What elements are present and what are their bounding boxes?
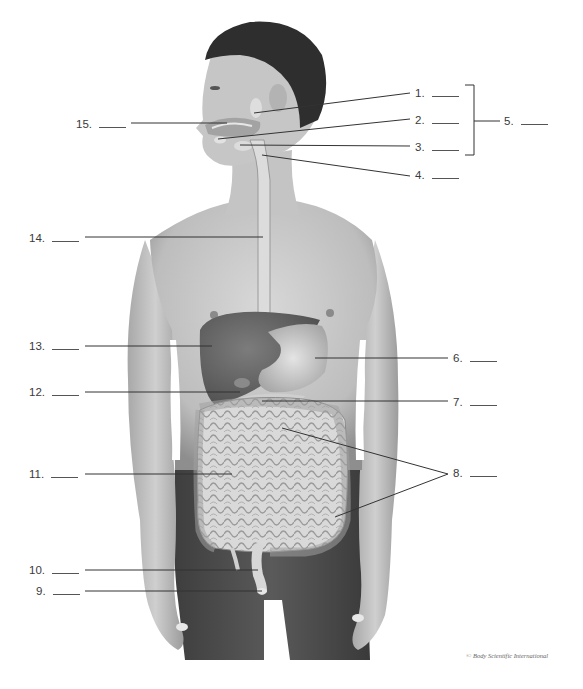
- label-14: 14.: [29, 231, 79, 245]
- answer-blank-14[interactable]: [52, 232, 79, 242]
- answer-blank-1[interactable]: [432, 87, 459, 97]
- submandibular-gland: [234, 141, 252, 151]
- anatomy-illustration: [0, 0, 583, 689]
- label-2: 2.: [415, 113, 459, 127]
- answer-blank-9[interactable]: [53, 585, 80, 595]
- label-12: 12.: [29, 385, 79, 399]
- gallbladder: [234, 378, 250, 388]
- label-11: 11.: [29, 467, 78, 481]
- answer-blank-12[interactable]: [52, 386, 79, 396]
- label-7: 7.: [453, 395, 497, 409]
- answer-blank-5[interactable]: [521, 115, 548, 125]
- answer-blank-10[interactable]: [52, 564, 79, 574]
- answer-blank-13[interactable]: [52, 340, 79, 350]
- label-8: 8.: [453, 466, 497, 480]
- parotid-gland: [250, 98, 262, 118]
- answer-blank-2[interactable]: [432, 114, 459, 124]
- copyright-credit: © Body Scientific International: [466, 652, 548, 659]
- answer-blank-6[interactable]: [470, 352, 497, 362]
- label-15: 15.: [76, 117, 126, 131]
- label-9: 9.: [36, 584, 80, 598]
- answer-blank-8[interactable]: [470, 467, 497, 477]
- label-5: 5.: [504, 114, 548, 128]
- answer-blank-4[interactable]: [432, 169, 459, 179]
- label-6: 6.: [453, 351, 497, 365]
- label-10: 10.: [29, 563, 79, 577]
- label-4: 4.: [415, 168, 459, 182]
- answer-blank-11[interactable]: [51, 468, 78, 478]
- label-13: 13.: [29, 339, 79, 353]
- answer-blank-3[interactable]: [432, 141, 459, 151]
- sublingual-gland: [214, 137, 226, 144]
- label-1: 1.: [415, 86, 459, 100]
- label-3: 3.: [415, 140, 459, 154]
- answer-blank-15[interactable]: [99, 118, 126, 128]
- answer-blank-7[interactable]: [470, 396, 497, 406]
- diagram-canvas: 1. 2. 3. 4. 5. 6. 7. 8. 9. 10. 11. 12. 1…: [0, 0, 583, 689]
